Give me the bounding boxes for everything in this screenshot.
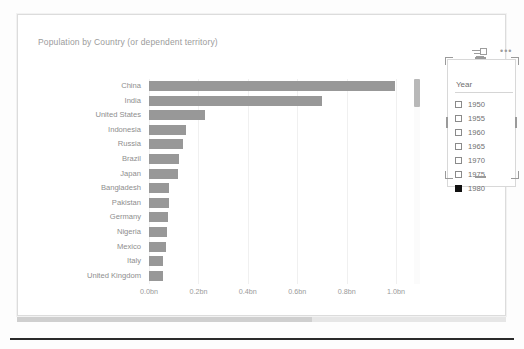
- bar-row[interactable]: [149, 108, 406, 123]
- resize-handle-bottom-right[interactable]: [511, 171, 519, 179]
- category-label: Japan: [26, 167, 145, 182]
- bar[interactable]: [149, 227, 167, 237]
- slicer-title: Year: [456, 80, 472, 89]
- category-label: Germany: [26, 210, 145, 225]
- value-axis-tick: 0.4bn: [239, 287, 257, 296]
- category-label: Mexico: [26, 240, 145, 255]
- bar[interactable]: [149, 81, 395, 91]
- bar[interactable]: [149, 154, 179, 164]
- bar[interactable]: [149, 212, 168, 222]
- chart-vertical-scrollbar[interactable]: [414, 79, 420, 284]
- value-axis-tick: 0.6bn: [288, 287, 306, 296]
- bar[interactable]: [149, 242, 166, 252]
- value-axis-tick: 0.2bn: [189, 287, 207, 296]
- resize-handle-top-right[interactable]: [511, 57, 519, 65]
- chart-title: Population by Country (or dependent terr…: [38, 37, 218, 47]
- value-axis-tick: 0.8bn: [338, 287, 356, 296]
- scrollbar-thumb[interactable]: [17, 317, 312, 322]
- more-options-icon[interactable]: •••: [500, 47, 512, 56]
- bar-row[interactable]: [149, 137, 406, 152]
- bar-row[interactable]: [149, 79, 406, 94]
- bar-row[interactable]: [149, 152, 406, 167]
- slicer-item-1970[interactable]: 1970: [455, 153, 515, 167]
- bar[interactable]: [149, 256, 163, 266]
- checkbox-checked-icon[interactable]: [455, 185, 462, 192]
- category-label: United Kingdom: [26, 269, 145, 284]
- slicer-item-1980[interactable]: 1980: [455, 181, 515, 195]
- bar-row[interactable]: [149, 240, 406, 255]
- bar-row[interactable]: [149, 210, 406, 225]
- canvas-horizontal-scrollbar[interactable]: [17, 317, 506, 322]
- value-axis-tick: 1.0bn: [387, 287, 405, 296]
- checkbox-icon[interactable]: [455, 101, 462, 108]
- slicer-title-divider: [455, 92, 513, 93]
- resize-handle-top-left[interactable]: [445, 57, 453, 65]
- bar-row[interactable]: [149, 167, 406, 182]
- category-label: India: [26, 94, 145, 109]
- slicer-item-1965[interactable]: 1965: [455, 139, 515, 153]
- slicer-item-1955[interactable]: 1955: [455, 111, 515, 125]
- category-label: Brazil: [26, 152, 145, 167]
- year-slicer-visual[interactable]: ••• Year 1950195519601965197019751980: [445, 46, 518, 189]
- resize-handle-left[interactable]: [446, 117, 448, 128]
- app-root: Population by Country (or dependent terr…: [0, 0, 524, 349]
- value-axis: 0.0bn0.2bn0.4bn0.6bn0.8bn1.0bn: [149, 287, 439, 301]
- bar-series: [149, 79, 406, 284]
- resize-handle-bottom[interactable]: [475, 176, 486, 178]
- bar[interactable]: [149, 139, 183, 149]
- plot-wrapper: ChinaIndiaUnited StatesIndonesiaRussiaBr…: [26, 57, 432, 305]
- slicer-item-label: 1970: [468, 156, 485, 165]
- category-label: Italy: [26, 254, 145, 269]
- slicer-item-1960[interactable]: 1960: [455, 125, 515, 139]
- resize-handle-right[interactable]: [515, 117, 517, 128]
- category-label: China: [26, 79, 145, 94]
- bar[interactable]: [149, 125, 186, 135]
- category-label: Indonesia: [26, 123, 145, 138]
- bar[interactable]: [149, 271, 163, 281]
- checkbox-icon[interactable]: [455, 115, 462, 122]
- slicer-item-label: 1965: [468, 142, 485, 151]
- report-canvas: Population by Country (or dependent terr…: [17, 14, 506, 316]
- bar[interactable]: [149, 169, 178, 179]
- bar-row[interactable]: [149, 94, 406, 109]
- slicer-item-list: 1950195519601965197019751980: [455, 97, 515, 195]
- bar[interactable]: [149, 96, 322, 106]
- plot-area[interactable]: [149, 79, 406, 284]
- slicer-item-label: 1950: [468, 100, 485, 109]
- category-label: Nigeria: [26, 225, 145, 240]
- slicer-item-label: 1960: [468, 128, 485, 137]
- slicer-body: Year 1950195519601965197019751980: [447, 59, 516, 187]
- slicer-item-label: 1955: [468, 114, 485, 123]
- bar[interactable]: [149, 110, 205, 120]
- bar[interactable]: [149, 183, 169, 193]
- bar-row[interactable]: [149, 181, 406, 196]
- checkbox-icon[interactable]: [455, 143, 462, 150]
- scrollbar-thumb[interactable]: [414, 79, 420, 107]
- slicer-item-label: 1980: [468, 184, 485, 193]
- checkbox-icon[interactable]: [455, 157, 462, 164]
- value-axis-tick: 0.0bn: [140, 287, 158, 296]
- checkbox-icon[interactable]: [455, 171, 462, 178]
- resize-handle-top[interactable]: [475, 57, 486, 59]
- bar-row[interactable]: [149, 254, 406, 269]
- bar-row[interactable]: [149, 123, 406, 138]
- bar-row[interactable]: [149, 225, 406, 240]
- category-axis: ChinaIndiaUnited StatesIndonesiaRussiaBr…: [26, 79, 145, 283]
- category-label: United States: [26, 108, 145, 123]
- slicer-item-1950[interactable]: 1950: [455, 97, 515, 111]
- category-label: Russia: [26, 137, 145, 152]
- bar-chart-visual[interactable]: Population by Country (or dependent terr…: [26, 37, 432, 305]
- bar-row[interactable]: [149, 196, 406, 211]
- resize-handle-bottom-left[interactable]: [445, 171, 453, 179]
- slicer-item-1975[interactable]: 1975: [455, 167, 515, 181]
- checkbox-icon[interactable]: [455, 129, 462, 136]
- category-label: Bangladesh: [26, 181, 145, 196]
- bar[interactable]: [149, 198, 169, 208]
- bar-row[interactable]: [149, 269, 406, 284]
- window-bottom-rule: [10, 338, 514, 340]
- category-label: Pakistan: [26, 196, 145, 211]
